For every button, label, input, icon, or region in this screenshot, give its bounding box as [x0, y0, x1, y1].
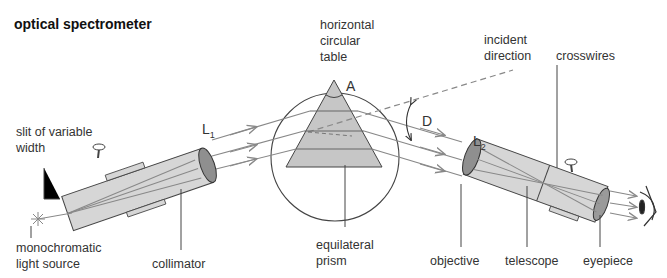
label-table: horizontal circular table: [320, 17, 374, 65]
label-deviation-D: D: [422, 113, 432, 129]
label-collimator: collimator: [152, 256, 206, 272]
label-apex-A: A: [346, 78, 355, 94]
deviation-arc: [407, 104, 412, 140]
label-L1: L1: [202, 121, 215, 143]
collimator-screw-icon: [93, 144, 105, 158]
label-prism: equilateral prism: [316, 237, 374, 269]
telescope-screw-icon: [565, 159, 577, 172]
label-objective: objective: [430, 253, 479, 269]
label-slit: slit of variable width: [16, 124, 92, 156]
eye-icon: [640, 186, 657, 226]
label-telescope: telescope: [505, 253, 559, 269]
label-light-source: monochromatic light source: [16, 240, 101, 272]
label-incident-direction: incident direction: [484, 32, 531, 64]
label-crosswires: crosswires: [556, 48, 615, 64]
label-L2: L2: [473, 133, 486, 155]
label-eyepiece: eyepiece: [583, 253, 633, 269]
